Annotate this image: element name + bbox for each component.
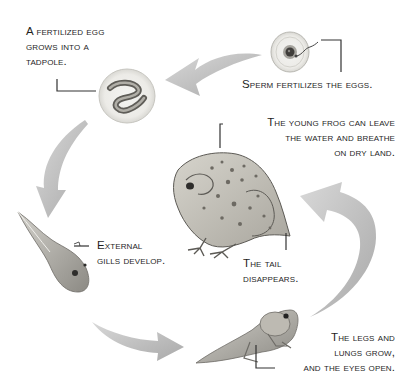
label-young-frog-line-3: on dry land. bbox=[267, 145, 395, 160]
label-tadpole-line-2: gills develop. bbox=[97, 253, 165, 268]
label-young-frog: The young frog can leave the water and b… bbox=[267, 115, 395, 160]
young-frog-illustration bbox=[174, 153, 291, 258]
label-embryo: A fertilized egg grows into a tadpole. bbox=[26, 24, 104, 69]
leader-embryo bbox=[57, 79, 96, 91]
label-young-frog-line-1: The young frog can leave bbox=[267, 115, 395, 130]
label-froglet: The legs and lungs grow, and the eyes op… bbox=[304, 330, 396, 375]
label-tail-loss: The tail disappears. bbox=[243, 256, 298, 286]
label-tail-loss-line-1: The tail bbox=[243, 256, 298, 271]
label-embryo-line-2: grows into a bbox=[26, 39, 104, 54]
arrow-embryo-to-tadpole bbox=[36, 120, 88, 218]
label-tadpole-line-1: External bbox=[97, 238, 165, 253]
arrow-froglet-to-young-frog bbox=[300, 182, 376, 317]
label-froglet-line-2: lungs grow, bbox=[304, 345, 396, 360]
tadpole-with-legs-illustration bbox=[196, 310, 298, 363]
label-froglet-line-3: and the eyes open. bbox=[304, 360, 396, 375]
label-froglet-line-1: The legs and bbox=[304, 330, 396, 345]
egg-with-embryo-illustration bbox=[99, 69, 155, 123]
frog-life-cycle-diagram: A fertilized egg grows into a tadpole. S… bbox=[0, 0, 409, 388]
arrow-tadpole-to-froglet bbox=[92, 322, 184, 361]
label-fertilization-line-1: Sperm fertilizes the eggs. bbox=[242, 77, 373, 92]
egg-with-sperm-illustration bbox=[271, 32, 318, 72]
label-tail-loss-line-2: disappears. bbox=[243, 271, 298, 286]
label-fertilization: Sperm fertilizes the eggs. bbox=[242, 77, 373, 92]
label-embryo-line-1: A fertilized egg bbox=[26, 24, 104, 39]
tadpole-with-gills-illustration bbox=[18, 212, 89, 292]
label-young-frog-line-2: the water and breathe bbox=[267, 130, 395, 145]
label-tadpole: External gills develop. bbox=[97, 238, 165, 268]
leader-fertilization bbox=[321, 40, 341, 72]
leader-young-frog bbox=[220, 124, 223, 148]
label-embryo-line-3: tadpole. bbox=[26, 54, 104, 69]
